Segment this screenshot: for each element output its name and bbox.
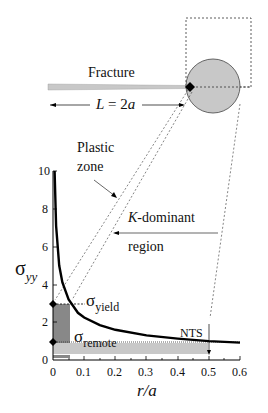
k-dominant-label-2: region (128, 240, 164, 254)
y-tick-0: 0 (42, 354, 48, 366)
x-tick-0.5: 0.5 (201, 366, 216, 378)
length-label: L = 2a (96, 97, 135, 112)
plastic-zone-line-1 (55, 90, 188, 300)
x-tick-0.2: 0.2 (107, 366, 122, 378)
sigma-yield-label: σyield (86, 292, 119, 309)
nts-label: NTS (180, 327, 203, 339)
x-axis-label: r/a (137, 382, 157, 399)
y-tick-8: 8 (42, 203, 48, 215)
small-shade (53, 355, 70, 358)
x-tick-0.1: 0.1 (76, 366, 91, 378)
k-dominant-label-1: K-dominant (128, 211, 195, 225)
fracture-crack (48, 84, 188, 90)
plastic-zone-pointer (94, 180, 115, 196)
fracture-label: Fracture (88, 66, 135, 80)
x-tick-0: 0 (50, 366, 56, 378)
plastic-zone-line-2 (72, 92, 192, 300)
x-tick-0.3: 0.3 (138, 366, 153, 378)
crack-tip-region (186, 59, 240, 113)
plastic-zone-label-1: Plastic (77, 141, 114, 155)
x-tick-0.6: 0.6 (232, 366, 247, 378)
k-region-line (210, 104, 240, 318)
y-tick-10: 10 (38, 165, 50, 177)
diagram-canvas (0, 0, 268, 413)
x-tick-0.4: 0.4 (170, 366, 185, 378)
y-tick-6: 6 (42, 241, 48, 253)
x-ticks (69, 356, 240, 360)
sigma-remote-label: σremote (74, 328, 117, 345)
y-axis-label: σyy (15, 258, 37, 278)
plastic-zone-label-2: zone (77, 160, 103, 174)
y-tick-4: 4 (42, 279, 48, 291)
y-tick-2: 2 (42, 316, 48, 328)
plastic-shade (53, 304, 70, 343)
